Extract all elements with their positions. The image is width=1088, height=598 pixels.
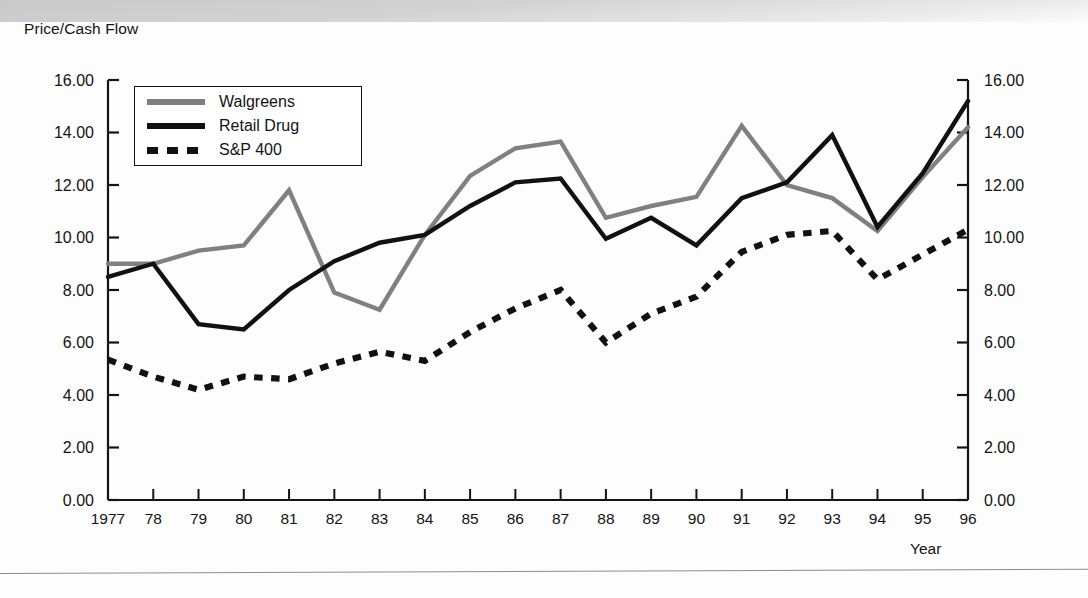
x-tick-label: 80: [235, 510, 253, 527]
x-tick-label: 95: [914, 510, 931, 527]
x-tick-label: 1977: [91, 510, 125, 527]
legend-item-label: S&P 400: [219, 142, 282, 158]
retail-drug-swatch: [147, 123, 205, 129]
x-tick-label: 79: [190, 510, 207, 527]
y-tick-label-right: 10.00: [984, 229, 1024, 246]
x-tick-label: 83: [371, 510, 388, 527]
y-tick-label-left: 14.00: [54, 124, 94, 141]
x-tick-label: 89: [643, 510, 660, 527]
legend-item-label: Retail Drug: [219, 118, 299, 134]
chart-legend: WalgreensRetail DrugS&P 400: [134, 86, 362, 166]
legend-item: Retail Drug: [147, 118, 351, 134]
y-tick-label-right: 6.00: [984, 334, 1015, 351]
x-tick-label: 91: [733, 510, 750, 527]
y-tick-label-right: 16.00: [984, 72, 1024, 89]
x-tick-label: 85: [461, 510, 478, 527]
y-tick-label-left: 0.00: [63, 492, 94, 509]
legend-item: S&P 400: [147, 142, 351, 158]
series-line-s-p-400: [108, 230, 968, 390]
x-tick-label: 84: [416, 510, 434, 527]
x-tick-label: 78: [145, 510, 162, 527]
x-tick-label: 82: [326, 510, 343, 527]
walgreens-swatch: [147, 99, 205, 105]
x-tick-label: 87: [552, 510, 569, 527]
y-tick-label-right: 14.00: [984, 124, 1024, 141]
x-tick-label: 90: [688, 510, 706, 527]
scan-artifact-bottom-rule: [0, 572, 1088, 575]
y-tick-label-right: 12.00: [984, 177, 1024, 194]
y-tick-label-left: 16.00: [54, 72, 94, 89]
legend-item: Walgreens: [147, 94, 351, 110]
x-tick-label: 94: [869, 510, 887, 527]
x-tick-label: 81: [280, 510, 297, 527]
legend-item-label: Walgreens: [219, 94, 295, 110]
x-tick-label: 93: [824, 510, 841, 527]
x-axis-title: Year: [910, 540, 941, 558]
y-tick-label-right: 0.00: [984, 492, 1015, 509]
y-tick-label-right: 2.00: [984, 439, 1015, 456]
y-tick-label-left: 10.00: [54, 229, 94, 246]
y-tick-label-left: 4.00: [63, 387, 94, 404]
x-tick-label: 92: [778, 510, 795, 527]
y-tick-label-right: 8.00: [984, 282, 1015, 299]
y-tick-label-left: 8.00: [63, 282, 94, 299]
x-tick-label: 96: [959, 510, 976, 527]
x-tick-label: 88: [597, 510, 614, 527]
y-tick-label-left: 12.00: [54, 177, 94, 194]
y-tick-label-left: 2.00: [63, 439, 94, 456]
y-tick-label-left: 6.00: [63, 334, 94, 351]
sp400-swatch: [147, 147, 205, 154]
y-tick-label-right: 4.00: [984, 387, 1015, 404]
x-tick-label: 86: [507, 510, 524, 527]
